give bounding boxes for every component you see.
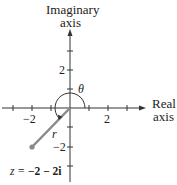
point-label-value: −2 − 2i (28, 165, 62, 177)
real-axis-arrow-icon (139, 106, 146, 111)
imaginary-axis-label-line2: axis (60, 16, 81, 29)
point-label: z = −2 − 2i (10, 166, 62, 178)
complex-plane (0, 0, 177, 185)
point-z (29, 144, 34, 149)
tick-label-x-pos2: 2 (104, 113, 110, 125)
tick-label-y-pos2: 2 (59, 64, 65, 76)
tick-label-y-neg2: −2 (53, 141, 66, 153)
imaginary-axis-arrow-icon (68, 29, 73, 36)
point-label-prefix: z = (10, 165, 28, 177)
tick-label-x-neg2: −2 (23, 113, 36, 125)
r-label: r (52, 128, 57, 140)
real-axis-label-line2: axis (153, 110, 174, 123)
theta-label: θ (78, 83, 84, 95)
